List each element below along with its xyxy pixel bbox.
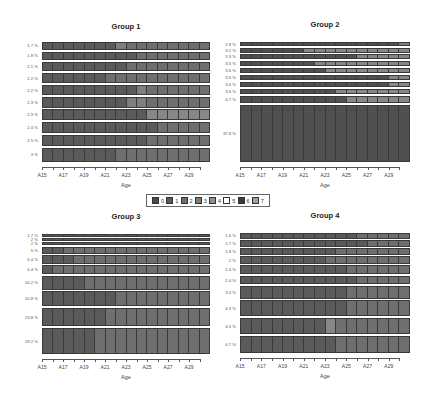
state-cell bbox=[147, 135, 157, 147]
row-percentage-label: 4.7 % bbox=[214, 342, 236, 347]
state-cell bbox=[336, 61, 347, 66]
state-cell bbox=[336, 105, 347, 162]
state-cell bbox=[252, 48, 263, 53]
state-cell bbox=[168, 238, 178, 241]
x-tick-label: A19 bbox=[273, 172, 293, 178]
state-cell bbox=[85, 255, 95, 264]
state-cell bbox=[357, 318, 368, 334]
state-cell bbox=[189, 52, 199, 60]
state-cell bbox=[85, 242, 95, 245]
state-cell bbox=[357, 233, 368, 239]
x-tick bbox=[168, 359, 169, 362]
x-tick-label: A25 bbox=[336, 172, 356, 178]
state-cell bbox=[64, 73, 74, 83]
state-cell bbox=[85, 328, 95, 354]
panel-title: Group 1 bbox=[18, 22, 234, 31]
state-cell bbox=[85, 276, 95, 290]
row-percentage-label: 3.5 % bbox=[214, 61, 236, 66]
state-cell bbox=[64, 328, 74, 354]
state-cell bbox=[137, 52, 147, 60]
row-percentage-label: 3.5 % bbox=[214, 290, 236, 295]
x-tick bbox=[272, 358, 273, 361]
state-cell bbox=[252, 75, 263, 80]
state-cell bbox=[368, 61, 379, 66]
state-cell bbox=[262, 96, 273, 103]
state-cell bbox=[315, 75, 326, 80]
state-cell bbox=[106, 242, 116, 245]
state-cell bbox=[315, 42, 326, 46]
panel-title: Group 3 bbox=[18, 212, 234, 221]
state-cell bbox=[200, 291, 210, 306]
state-cell bbox=[347, 96, 358, 103]
state-cell bbox=[326, 48, 337, 53]
state-cell bbox=[294, 256, 305, 263]
state-cell bbox=[347, 300, 358, 316]
state-cell bbox=[262, 233, 273, 239]
state-cell bbox=[378, 82, 389, 87]
state-cell bbox=[378, 233, 389, 239]
state-cell bbox=[189, 73, 199, 83]
row-percentage-label: 2.5 % bbox=[16, 138, 38, 143]
state-cell bbox=[189, 291, 199, 306]
x-tick bbox=[261, 358, 262, 361]
state-cell bbox=[357, 276, 368, 285]
state-cell bbox=[137, 291, 147, 306]
state-cell bbox=[200, 135, 210, 147]
state-cell bbox=[357, 256, 368, 263]
state-cell bbox=[378, 300, 389, 316]
state-cell bbox=[200, 62, 210, 72]
state-cell bbox=[273, 300, 284, 316]
state-cell bbox=[85, 308, 95, 327]
state-cell bbox=[399, 240, 410, 246]
legend-item: 1 bbox=[166, 197, 178, 204]
state-cell bbox=[200, 148, 210, 162]
state-cell bbox=[116, 109, 126, 120]
state-cell bbox=[294, 286, 305, 299]
state-cell bbox=[74, 291, 84, 306]
state-cell bbox=[304, 96, 315, 103]
state-cell bbox=[42, 52, 53, 60]
x-tick bbox=[368, 167, 369, 170]
state-cell bbox=[106, 265, 116, 274]
state-cell bbox=[378, 96, 389, 103]
state-cell bbox=[179, 291, 189, 306]
state-cell bbox=[95, 122, 105, 133]
state-cell bbox=[179, 122, 189, 133]
x-tick bbox=[368, 358, 369, 361]
state-cell bbox=[127, 135, 137, 147]
state-cell bbox=[273, 240, 284, 246]
x-tick bbox=[189, 359, 190, 362]
state-cell bbox=[336, 336, 347, 353]
state-cell bbox=[42, 109, 53, 120]
state-cell bbox=[336, 248, 347, 255]
state-cell bbox=[168, 291, 178, 306]
state-cell bbox=[189, 135, 199, 147]
state-cell bbox=[326, 240, 337, 246]
state-cell bbox=[189, 234, 199, 237]
sequence-row bbox=[240, 96, 410, 103]
state-cell bbox=[347, 68, 358, 73]
state-cell bbox=[252, 68, 263, 73]
state-cell bbox=[168, 265, 178, 274]
state-cell bbox=[53, 234, 63, 237]
row-percentage-label: 2 % bbox=[16, 241, 38, 246]
legend-swatch bbox=[238, 197, 245, 204]
state-cell bbox=[336, 54, 347, 59]
x-tick-label: A15 bbox=[230, 363, 250, 369]
legend-label: 0 bbox=[161, 198, 164, 204]
state-cell bbox=[378, 336, 389, 353]
state-cell bbox=[158, 247, 168, 254]
state-cell bbox=[315, 233, 326, 239]
state-cell bbox=[315, 68, 326, 73]
state-cell bbox=[399, 265, 410, 274]
x-tick bbox=[378, 358, 379, 361]
state-cell bbox=[168, 85, 178, 95]
state-cell bbox=[74, 265, 84, 274]
state-cell bbox=[252, 96, 263, 103]
state-cell bbox=[273, 48, 284, 53]
state-cell bbox=[389, 276, 400, 285]
state-cell bbox=[64, 234, 74, 237]
state-cell bbox=[158, 276, 168, 290]
state-cell bbox=[283, 75, 294, 80]
state-cell bbox=[326, 82, 337, 87]
